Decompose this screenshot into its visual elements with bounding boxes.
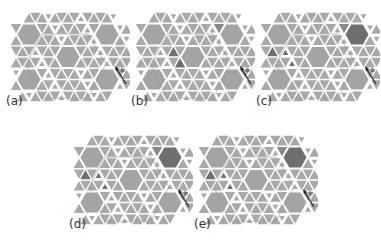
hexagon-tile xyxy=(143,25,166,45)
triangle-tile xyxy=(180,148,186,153)
triangle-tile xyxy=(174,137,180,142)
triangle-tile xyxy=(273,205,279,210)
triangle-tile xyxy=(46,72,52,77)
triangle-tile xyxy=(305,148,311,153)
triangle-tile xyxy=(154,216,160,221)
arrow-b-label: b xyxy=(184,189,188,196)
panel-c: b(c) xyxy=(252,2,380,124)
triangle-tile xyxy=(91,93,97,98)
triangle-tile xyxy=(184,37,190,42)
arrow-b-label: b xyxy=(309,189,313,196)
triangle-tile xyxy=(89,216,95,221)
triangle-tile xyxy=(111,14,117,19)
panel-label: (e) xyxy=(194,217,211,231)
triangle-tile xyxy=(210,27,216,32)
triangle-tile xyxy=(374,37,380,42)
triangle-tile xyxy=(161,173,167,178)
triangle-tile xyxy=(335,82,341,87)
triangle-tile xyxy=(52,25,58,30)
triangle-tile xyxy=(335,27,341,32)
hexagon-tile xyxy=(143,70,166,90)
triangle-tile xyxy=(328,16,334,21)
triangle-tile xyxy=(273,150,279,155)
triangle-tile xyxy=(180,207,186,212)
triangle-tile xyxy=(286,173,292,178)
hexagon-tile xyxy=(159,148,182,168)
panel-label: (d) xyxy=(69,217,86,231)
triangle-tile xyxy=(234,137,240,142)
triangle-tile xyxy=(13,70,19,75)
triangle-tile xyxy=(289,61,295,66)
triangle-tile xyxy=(109,195,115,200)
hexagon-tile xyxy=(268,70,291,90)
triangle-tile xyxy=(302,25,308,30)
arrow-b-label: b xyxy=(246,66,250,73)
triangle-tile xyxy=(98,50,104,55)
triangle-tile xyxy=(361,14,367,19)
panel-label: (c) xyxy=(256,94,272,108)
triangle-tile xyxy=(177,25,183,30)
triangle-tile xyxy=(216,93,222,98)
triangle-tile xyxy=(85,27,91,32)
triangle-tile xyxy=(266,193,272,198)
triangle-tile xyxy=(184,95,190,100)
triangle-tile xyxy=(296,72,302,77)
hexagon-tile xyxy=(18,25,41,45)
triangle-tile xyxy=(102,184,108,189)
triangle-tile xyxy=(328,70,334,75)
hexagon-tile xyxy=(18,70,41,90)
triangle-tile xyxy=(348,50,354,55)
hexagon-tile xyxy=(284,148,307,168)
hexagon-tile xyxy=(307,47,330,67)
panel-label: (b) xyxy=(131,94,148,108)
triangle-tile xyxy=(148,205,154,210)
triangle-tile xyxy=(85,82,91,87)
triangle-tile xyxy=(299,137,305,142)
triangle-tile xyxy=(171,72,177,77)
panel-d: b(d) xyxy=(65,125,193,247)
panel-a: b(a) xyxy=(2,2,130,124)
triangle-tile xyxy=(52,84,58,89)
triangle-tile xyxy=(276,93,282,98)
hexagon-tile xyxy=(346,70,369,90)
triangle-tile xyxy=(367,84,373,89)
triangle-tile xyxy=(203,16,209,21)
triangle-tile xyxy=(210,82,216,87)
triangle-tile xyxy=(296,14,302,19)
hexagon-tile xyxy=(120,170,143,190)
hexagon-tile xyxy=(96,25,119,45)
hexagon-tile xyxy=(57,47,80,67)
triangle-tile xyxy=(78,16,84,21)
hexagon-tile xyxy=(182,47,205,67)
triangle-tile xyxy=(247,218,253,223)
triangle-tile xyxy=(203,70,209,75)
triangle-tile xyxy=(148,150,154,155)
arrow-b-label: b xyxy=(371,66,375,73)
hexagon-tile xyxy=(245,170,268,190)
triangle-tile xyxy=(115,148,121,153)
hexagon-tile xyxy=(159,193,182,213)
hexagon-tile xyxy=(346,25,369,45)
triangle-tile xyxy=(309,37,315,42)
triangle-tile xyxy=(214,216,220,221)
triangle-tile xyxy=(59,37,65,42)
triangle-tile xyxy=(177,84,183,89)
triangle-tile xyxy=(39,61,45,66)
triangle-tile xyxy=(371,25,380,34)
panel-label: (a) xyxy=(6,94,23,108)
triangle-tile xyxy=(227,184,233,189)
triangle-tile xyxy=(279,216,285,221)
triangle-tile xyxy=(122,218,128,223)
triangle-tile xyxy=(141,193,147,198)
hexagon-tile xyxy=(221,70,244,90)
triangle-tile xyxy=(247,160,253,165)
triangle-tile xyxy=(341,93,347,98)
triangle-tile xyxy=(263,70,269,75)
triangle-tile xyxy=(302,84,308,89)
triangle-tile xyxy=(122,160,128,165)
triangle-tile xyxy=(371,80,380,89)
triangle-tile xyxy=(240,148,246,153)
triangle-tile xyxy=(59,95,65,100)
hexagon-tile xyxy=(221,25,244,45)
triangle-tile xyxy=(305,207,311,212)
